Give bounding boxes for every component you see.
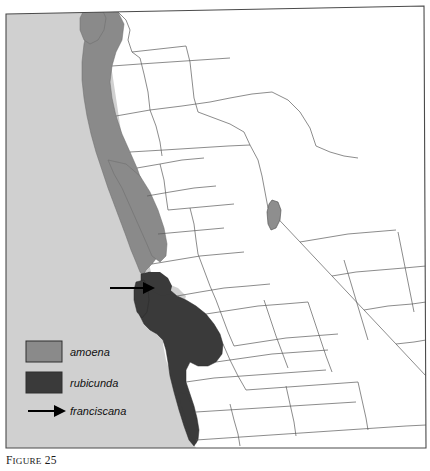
caption-lead-letter: F (6, 454, 13, 466)
legend-label-rubicunda: rubicunda (70, 377, 118, 389)
distribution-map: amoena rubicunda franciscana (0, 0, 430, 452)
caption-number-value: 25 (45, 454, 57, 466)
figure-caption: FIGURE 25 (6, 454, 306, 470)
figure-container: amoena rubicunda franciscana FIGURE 25 (0, 0, 430, 471)
legend-swatch-amoena (26, 341, 62, 362)
legend-swatch-rubicunda (26, 372, 62, 393)
map-frame: amoena rubicunda franciscana (0, 0, 430, 452)
legend-label-amoena: amoena (70, 346, 110, 358)
legend-label-franciscana: franciscana (70, 405, 126, 417)
caption-word-rest: IGURE (13, 456, 42, 466)
